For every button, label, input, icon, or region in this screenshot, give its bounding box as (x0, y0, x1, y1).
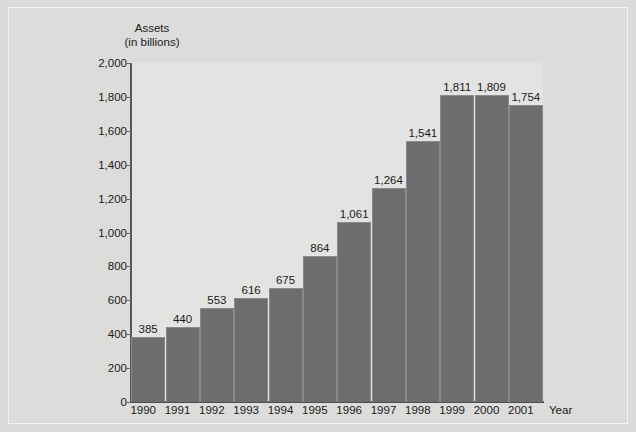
bar[interactable] (475, 95, 509, 402)
bar-column[interactable]: 440 (166, 63, 200, 402)
bar-column[interactable]: 616 (234, 63, 268, 402)
y-tick-mark (126, 368, 131, 369)
y-tick-mark (126, 266, 131, 267)
bar-column[interactable]: 864 (303, 63, 337, 402)
y-tick-label: 1,200 (81, 193, 127, 205)
x-axis-title: Year (549, 404, 572, 416)
y-tick-mark (126, 63, 131, 64)
bar[interactable] (372, 188, 406, 402)
y-tick-mark (126, 97, 131, 98)
bar-series: 3854405536166758641,0611,2641,5411,8111,… (131, 63, 543, 402)
y-tick-mark (126, 165, 131, 166)
bar[interactable] (200, 308, 234, 402)
bar-column[interactable]: 1,811 (440, 63, 474, 402)
bar[interactable] (440, 95, 474, 402)
bar[interactable] (303, 256, 337, 402)
bar-column[interactable]: 385 (131, 63, 165, 402)
bar-column[interactable]: 1,264 (372, 63, 406, 402)
y-tick-mark (126, 300, 131, 301)
bar[interactable] (337, 222, 371, 402)
y-tick-label: 800 (81, 260, 127, 272)
y-tick-mark (126, 402, 131, 403)
y-tick-label: 400 (81, 328, 127, 340)
x-tick-label: 2001 (499, 404, 543, 416)
bar[interactable] (166, 327, 200, 402)
bar[interactable] (131, 337, 165, 402)
bar-value-label: 675 (263, 274, 309, 286)
bar-value-label: 1,061 (331, 208, 377, 220)
y-tick-mark (126, 199, 131, 200)
figure-frame: Assets (in billions) Year 02004006008001… (8, 7, 628, 424)
bar[interactable] (234, 298, 268, 402)
bar[interactable] (406, 141, 440, 402)
y-tick-label: 1,800 (81, 91, 127, 103)
y-tick-label: 1,600 (81, 125, 127, 137)
y-tick-label: 200 (81, 362, 127, 374)
bar-value-label: 1,754 (503, 91, 549, 103)
y-tick-label: 2,000 (81, 57, 127, 69)
bar-value-label: 440 (160, 313, 206, 325)
bar-value-label: 1,541 (400, 127, 446, 139)
y-tick-mark (126, 334, 131, 335)
y-tick-label: 1,400 (81, 159, 127, 171)
bar-value-label: 864 (297, 242, 343, 254)
bar-value-label: 1,264 (366, 174, 412, 186)
y-tick-label: 0 (81, 396, 127, 408)
y-tick-mark (126, 233, 131, 234)
bar-column[interactable]: 675 (269, 63, 303, 402)
bar-column[interactable]: 1,809 (475, 63, 509, 402)
y-tick-label: 1,000 (81, 227, 127, 239)
bar-column[interactable]: 553 (200, 63, 234, 402)
bar-column[interactable]: 1,754 (509, 63, 543, 402)
y-tick-label: 600 (81, 294, 127, 306)
bar-column[interactable]: 1,541 (406, 63, 440, 402)
bar-column[interactable]: 1,061 (337, 63, 371, 402)
chart-figure: Assets (in billions) Year 02004006008001… (0, 0, 636, 432)
x-axis-tick-labels: 1990199119921993199419951996199719981999… (131, 404, 543, 422)
bar[interactable] (269, 288, 303, 402)
y-axis-tick-labels: 02004006008001,0001,2001,4001,6001,8002,… (75, 8, 127, 432)
y-tick-mark (126, 131, 131, 132)
bar[interactable] (509, 105, 543, 402)
bar-value-label: 553 (194, 294, 240, 306)
